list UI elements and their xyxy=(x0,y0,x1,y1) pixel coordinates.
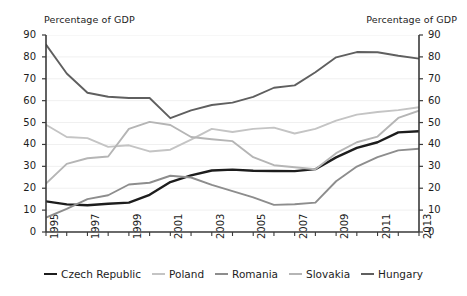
axes-overlay xyxy=(0,0,467,296)
chart-container: Percentage of GDP Percentage of GDP 0102… xyxy=(0,0,467,296)
